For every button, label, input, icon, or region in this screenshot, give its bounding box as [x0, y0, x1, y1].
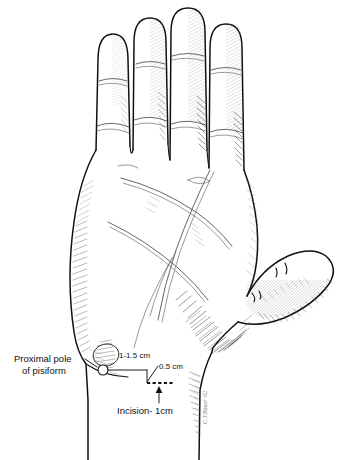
thenar-crease-shadow: [162, 172, 214, 322]
ulnar-palm-hatch-upper: [77, 180, 94, 222]
palm-outline: [70, 150, 96, 460]
hand-landmark-diagram: Proximal pole of pisiform 1-1.5 cm 0.5 c…: [0, 0, 352, 460]
wrist-accessory-crease: [150, 258, 172, 316]
proximal-pole-label-line1: Proximal pole: [14, 353, 72, 364]
small-finger-pip-crease: [97, 123, 129, 127]
small-finger-base-fold: [118, 165, 138, 168]
index-finger-pip-crease-2: [210, 135, 243, 139]
distance-label: 1-1.5 cm: [119, 351, 150, 360]
thumb-ip-crease-2: [276, 268, 277, 277]
incision-arrow-head: [156, 386, 163, 393]
thumb-shading: [240, 280, 340, 328]
artist-signature-text: C.T.Bauer '02: [202, 391, 208, 424]
offset-leader-line: [147, 366, 158, 382]
proximal-pole-label-line2: of pisiform: [22, 365, 66, 376]
artist-signature: C.T.Bauer '02: [202, 391, 208, 424]
thenar-crease: [158, 170, 210, 320]
offset-label: 0.5 cm: [159, 362, 183, 371]
ulnar-palm-hatch: [73, 221, 90, 352]
proximal-palmar-crease-shadow: [110, 227, 205, 302]
incision-label: Incision- 1cm: [117, 405, 173, 416]
distal-palmar-crease: [121, 178, 232, 246]
proximal-pole-marker: [98, 365, 108, 375]
hand-illustration-svg: Proximal pole of pisiform 1-1.5 cm 0.5 c…: [0, 0, 352, 460]
palm-mid-shading: [146, 196, 204, 246]
thenar-eminence-hatch-fine: [186, 311, 252, 352]
wrist-right-hatch: [189, 372, 200, 433]
mcp-pad-fold: [188, 177, 210, 184]
palmar-creases-group: [108, 165, 232, 348]
small-finger-pip-crease-2: [97, 129, 129, 133]
annotation-group: Proximal pole of pisiform 1-1.5 cm 0.5 c…: [14, 340, 183, 416]
thumb-ip-crease: [285, 263, 287, 274]
distal-palm-radial-contour: [244, 170, 258, 296]
